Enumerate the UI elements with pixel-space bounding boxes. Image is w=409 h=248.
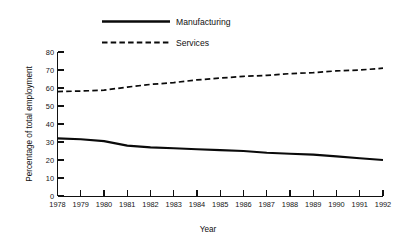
y-axis-ticks: 01020304050607080 [46, 48, 64, 201]
x-tick-label: 1984 [189, 200, 205, 209]
line-chart: Manufacturing Services 01020304050607080… [0, 0, 409, 248]
legend-label-services: Services [176, 38, 209, 48]
series-line-manufacturing [58, 138, 384, 160]
x-tick-label: 1992 [375, 200, 391, 209]
y-tick-label: 30 [46, 138, 54, 147]
x-tick-label: 1979 [73, 200, 89, 209]
y-tick-label: 80 [46, 48, 54, 57]
x-tick-label: 1986 [235, 200, 251, 209]
chart-figure: Manufacturing Services 01020304050607080… [0, 0, 409, 248]
y-tick-label: 20 [46, 156, 54, 165]
y-tick-label: 60 [46, 84, 54, 93]
x-tick-label: 1988 [282, 200, 298, 209]
x-tick-label: 1989 [305, 200, 321, 209]
x-tick-label: 1987 [259, 200, 275, 209]
x-tick-label: 1981 [119, 200, 135, 209]
chart-series [58, 68, 384, 160]
x-axis-ticks: 1978197919801981198219831984198519861987… [49, 190, 391, 209]
x-tick-label: 1990 [328, 200, 344, 209]
x-tick-label: 1978 [49, 200, 65, 209]
chart-axes [58, 52, 384, 197]
x-tick-label: 1985 [212, 200, 228, 209]
x-tick-label: 1991 [352, 200, 368, 209]
y-tick-label: 10 [46, 174, 54, 183]
y-axis-title: Percentage of total employment [25, 65, 34, 181]
x-tick-label: 1982 [142, 200, 158, 209]
x-tick-label: 1983 [166, 200, 182, 209]
chart-legend: Manufacturing Services [102, 17, 231, 48]
y-tick-label: 40 [46, 120, 54, 129]
legend-label-manufacturing: Manufacturing [176, 17, 231, 27]
y-tick-label: 50 [46, 102, 54, 111]
x-axis-title: Year [200, 225, 217, 234]
series-line-services [58, 68, 384, 91]
x-tick-label: 1980 [96, 200, 112, 209]
y-tick-label: 70 [46, 66, 54, 75]
